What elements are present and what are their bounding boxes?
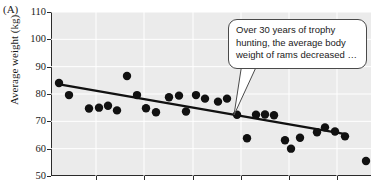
data-point: [281, 136, 289, 144]
callout-tail-icon: [228, 63, 288, 121]
callout-text: Over 30 years of trophy hunting, the ave…: [236, 24, 362, 62]
data-point: [287, 144, 295, 152]
x-tick-mark: [96, 176, 97, 180]
data-point: [95, 103, 103, 111]
x-tick-mark: [144, 176, 145, 180]
y-tick-label: 80: [18, 89, 46, 100]
y-tick-mark: [47, 12, 51, 13]
data-point: [65, 91, 73, 99]
x-tick-mark: [241, 176, 242, 180]
y-tick-label: 110: [18, 7, 46, 18]
data-point: [152, 108, 160, 116]
data-point: [192, 91, 200, 99]
y-tick-label: 60: [18, 144, 46, 155]
data-point: [133, 91, 141, 99]
data-point: [175, 91, 183, 99]
data-point: [85, 104, 93, 112]
data-points: [55, 72, 370, 165]
data-point: [201, 94, 209, 102]
data-point: [113, 106, 121, 114]
data-point: [331, 127, 339, 135]
x-tick-mark: [193, 176, 194, 180]
data-point: [142, 104, 150, 112]
y-tick-label: 100: [18, 34, 46, 45]
data-point: [214, 97, 222, 105]
figure-panel-a: (A) Average weight (kg) 5060708090100110…: [0, 0, 371, 186]
callout-annotation: Over 30 years of trophy hunting, the ave…: [228, 19, 367, 69]
data-point: [321, 123, 329, 131]
y-tick-label: 70: [18, 116, 46, 127]
y-tick-mark: [47, 94, 51, 95]
y-tick-label: 90: [18, 62, 46, 73]
y-tick-mark: [47, 176, 51, 177]
data-point: [104, 102, 112, 110]
data-point: [362, 157, 370, 165]
y-tick-mark: [47, 121, 51, 122]
data-point: [123, 72, 131, 80]
x-tick-mark: [337, 176, 338, 180]
data-point: [55, 79, 63, 87]
data-point: [313, 128, 321, 136]
data-point: [182, 107, 190, 115]
data-point: [341, 132, 349, 140]
data-point: [165, 93, 173, 101]
y-tick-mark: [47, 39, 51, 40]
y-tick-label: 50: [18, 171, 46, 182]
y-tick-mark: [47, 67, 51, 68]
x-tick-mark: [289, 176, 290, 180]
y-tick-mark: [47, 149, 51, 150]
data-point: [243, 134, 251, 142]
data-point: [296, 134, 304, 142]
